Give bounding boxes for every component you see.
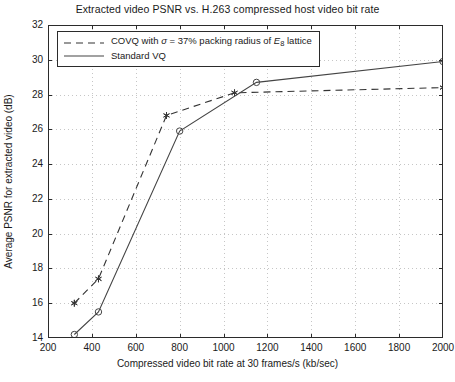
legend-covq-suffix: lattice [284,35,311,46]
legend-label-covq: COVQ with σ = 37% packing radius of E8 l… [111,36,312,49]
series-line-0 [74,88,443,304]
legend-label-standard-vq: Standard VQ [111,51,166,61]
x-tick-label: 2000 [432,343,454,353]
y-tick-label: 16 [32,298,43,308]
y-tick-label: 28 [32,90,43,100]
legend-dashed-line-sample [63,38,105,48]
x-tick-label: 400 [84,343,101,353]
legend-item-covq: COVQ with σ = 37% packing radius of E8 l… [63,36,312,49]
x-tick-label: 1800 [388,343,410,353]
chart-title: Extracted video PSNR vs. H.263 compresse… [0,3,455,15]
x-tick-label: 600 [127,343,144,353]
y-tick-label: 20 [32,229,43,239]
y-tick-label: 22 [32,194,43,204]
marker-0-2 [164,112,170,119]
x-tick-label: 800 [171,343,188,353]
x-tick-label: 1200 [256,343,278,353]
y-tick-label: 24 [32,159,43,169]
y-tick-label: 30 [32,55,43,65]
data-series [71,58,443,337]
x-tick-label: 1600 [344,343,366,353]
legend-solid-line-sample [63,51,105,61]
series-line-1 [74,62,443,335]
chart-legend: COVQ with σ = 37% packing radius of E8 l… [57,31,320,67]
marker-0-1 [96,275,102,282]
chart-figure: Extracted video PSNR vs. H.263 compresse… [0,0,455,382]
y-tick-label: 32 [32,20,43,30]
x-tick-label: 1400 [300,343,322,353]
legend-covq-middle: = 37% packing radius of [167,35,274,46]
y-tick-label: 26 [32,124,43,134]
plot-area: 14161820222426283032 2004006008001000120… [48,25,443,338]
y-axis-label: Average PSNR for extracted video (dB) [3,92,14,272]
legend-item-standard-vq: Standard VQ [63,49,312,62]
x-axis-label: Compressed video bit rate at 30 frames/s… [0,358,455,369]
x-tick-label: 1000 [212,343,234,353]
plot-svg [48,25,443,338]
y-tick-label: 18 [32,263,43,273]
legend-covq-prefix: COVQ with [111,35,161,46]
x-tick-label: 200 [40,343,57,353]
